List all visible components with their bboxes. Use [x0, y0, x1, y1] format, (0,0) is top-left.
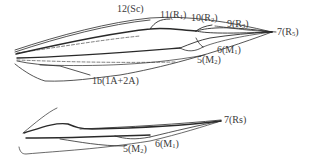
label-hind-m2: 5(M2) [123, 144, 147, 155]
label-m2: 5(M2) [197, 55, 221, 66]
label-r3: 9(R3) [227, 19, 249, 30]
label-anal: 1b(1A+2A) [92, 76, 139, 86]
label-r2: 10(R2) [191, 13, 218, 24]
hindwing [19, 108, 221, 154]
label-hind-rs: 7(Rs) [224, 115, 246, 125]
label-r5: 7(R5) [277, 27, 299, 38]
label-r1: 11(R1) [160, 10, 186, 21]
wing-venation-diagram: 12(Sc) 11(R1) 10(R2) 9(R3) 7(R5) 6(M1) 5… [0, 0, 309, 168]
label-hind-m1: 6(M1) [155, 139, 179, 150]
label-sc: 12(Sc) [117, 4, 144, 14]
